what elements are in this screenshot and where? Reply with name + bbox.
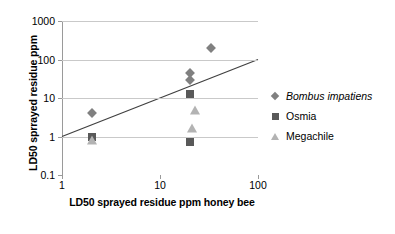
y-axis-tick xyxy=(58,98,62,99)
y-gridline xyxy=(62,98,258,99)
y-axis-tick xyxy=(58,60,62,61)
x-tick-label: 1 xyxy=(59,179,65,191)
legend-label: Megachile xyxy=(286,130,334,142)
y-tick-label: 10 xyxy=(43,92,55,104)
x-axis-title: LD50 sprayed residue ppm honey bee xyxy=(62,196,262,208)
legend-item[interactable]: Megachile xyxy=(268,126,394,146)
data-point-square xyxy=(186,90,194,98)
x-tick-label: 10 xyxy=(154,179,166,191)
y-axis-tick xyxy=(58,137,62,138)
legend-triangle-icon xyxy=(268,133,282,140)
chart-legend: Bombus impatiensOsmiaMegachile xyxy=(268,86,394,146)
y-tick-label: 0.1 xyxy=(40,169,55,181)
y-tick-label: 1000 xyxy=(32,15,55,27)
y-gridline xyxy=(62,60,258,61)
y-tick-label: 100 xyxy=(37,54,55,66)
data-point-square xyxy=(186,138,194,146)
legend-item[interactable]: Osmia xyxy=(268,106,394,126)
data-point-triangle xyxy=(87,136,97,145)
y-axis-title: LD50 sprrayed residue ppm xyxy=(27,8,39,198)
ld50-scatter-chart: LD50 sprrayed residue ppm LD50 sprayed r… xyxy=(0,0,395,234)
legend-diamond-icon xyxy=(268,93,282,99)
x-tick-label: 100 xyxy=(249,179,267,191)
legend-square-icon xyxy=(268,113,282,120)
y-axis-tick xyxy=(58,21,62,22)
legend-label: Bombus impatiens xyxy=(286,90,372,102)
legend-label: Osmia xyxy=(286,110,316,122)
data-point-triangle xyxy=(187,123,197,132)
plot-area: 10001001010.1110100 xyxy=(62,21,258,175)
data-point-triangle xyxy=(190,105,200,114)
y-tick-label: 1 xyxy=(49,131,55,143)
y-gridline xyxy=(62,21,258,22)
legend-item[interactable]: Bombus impatiens xyxy=(268,86,394,106)
